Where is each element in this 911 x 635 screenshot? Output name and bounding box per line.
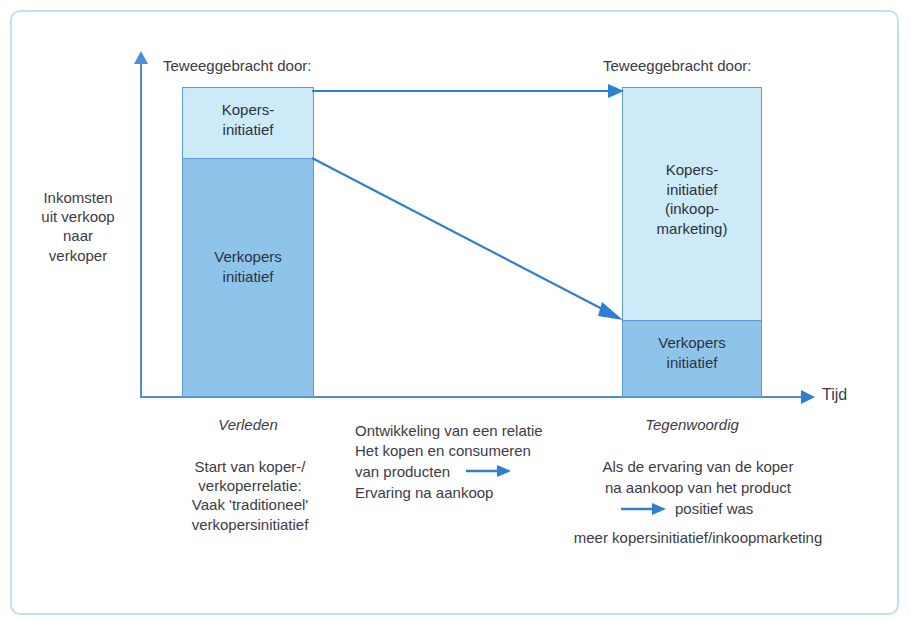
middle-note-line-3: van producten	[355, 462, 450, 481]
left-note: Start van koper-/ verkoperrelatie: Vaak …	[155, 457, 345, 534]
middle-note-line-1: Ontwikkeling van een relatie	[355, 421, 543, 440]
middle-inline-arrow-icon	[466, 462, 512, 480]
right-bar-header: Teweeggebracht door:	[603, 56, 751, 75]
x-axis-arrowhead	[801, 390, 815, 404]
diagram-stage: Inkomsten uit verkoop naar verkoper Tijd…	[0, 0, 911, 635]
x-axis-label: Tijd	[822, 385, 847, 405]
y-axis-label: Inkomsten uit verkoop naar verkoper	[18, 188, 138, 265]
middle-note-line-4: Ervaring na aankoop	[355, 483, 493, 502]
right-note-line-2: na aankoop van het product	[553, 478, 843, 497]
right-inline-arrow-icon	[621, 500, 667, 518]
top-connector-arrow	[310, 80, 630, 104]
right-note-line-3: positief was	[675, 499, 753, 518]
left-period-label: Verleden	[188, 415, 308, 434]
y-axis-line	[140, 62, 142, 398]
left-bar-buyer-initiative-label: Kopers- initiatief	[182, 100, 314, 139]
right-note-line-1: Als de ervaring van de koper	[553, 457, 843, 476]
middle-note-line-2: Het kopen en consumeren	[355, 441, 531, 460]
right-note-line-4: meer kopersinitiatief/inkoopmarketing	[528, 528, 868, 547]
right-period-label: Tegenwoordig	[622, 415, 762, 434]
y-axis-arrowhead	[134, 51, 148, 64]
diagonal-connector-arrow	[310, 150, 630, 330]
right-bar-buyer-initiative-label: Kopers- initiatief (inkoop- marketing)	[622, 160, 762, 238]
left-bar-seller-initiative-label: Verkopers initiatief	[182, 247, 314, 286]
right-bar-seller-initiative-label: Verkopers initiatief	[622, 333, 762, 372]
left-bar-header: Teweeggebracht door:	[163, 56, 311, 75]
